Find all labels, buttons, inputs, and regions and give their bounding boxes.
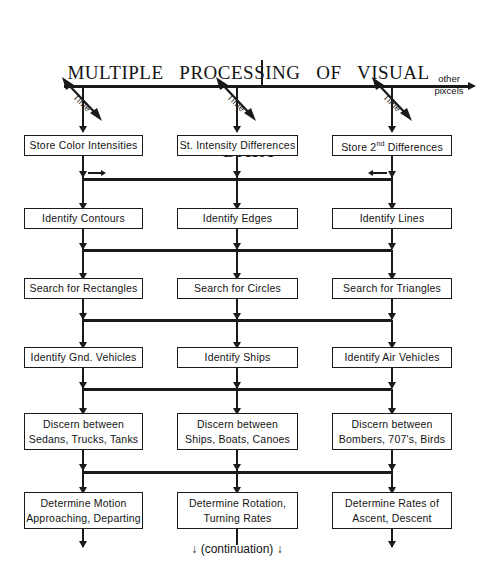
node-c2-s6-line1: Determine Rotation, [189, 496, 286, 511]
node-c3-s2[interactable]: Identify Lines [332, 208, 452, 229]
pixcels-label: pixcels [420, 85, 478, 97]
node-c3-s6[interactable]: Determine Rates of Ascent, Descent [332, 492, 452, 529]
node-c3-s4-line1: Identify Air Vehicles [344, 351, 439, 364]
node-c3-s5-line1: Discern between [351, 417, 432, 432]
node-c3-s3-line1: Search for Triangles [343, 282, 441, 295]
node-c2-s1[interactable]: St. Intensity Differences [177, 135, 298, 156]
c1-arrow-6-icon [79, 541, 87, 548]
node-c2-s3-line1: Search for Circles [194, 282, 281, 295]
crossbar-1-right-hint-line [88, 172, 102, 174]
c2-arrow-axis-icon [233, 126, 241, 133]
c1-arrow-5-icon [79, 464, 87, 471]
node-c1-s6[interactable]: Determine Motion Approaching, Departing [24, 492, 143, 529]
c1-arrow-1-icon [79, 171, 87, 178]
c3-arrow-6-icon [388, 541, 396, 548]
c3-arrow-1-icon [388, 171, 396, 178]
c2-arrow-5-icon [233, 464, 241, 471]
node-c3-s1-line1: Store 2nd Differences [341, 137, 443, 154]
node-c1-s6-line2: Approaching, Departing [26, 511, 141, 526]
node-c2-s5-line2: Ships, Boats, Canoes [185, 432, 290, 447]
node-c1-s4[interactable]: Identify Gnd. Vehicles [24, 347, 143, 368]
other-label: other [420, 73, 478, 85]
c3-arrow-5-icon [388, 464, 396, 471]
node-c2-s1-line1: St. Intensity Differences [180, 139, 296, 152]
diagram-canvas: MULTIPLE PROCESSING OF VISUAL DATA other… [0, 0, 497, 571]
c2-arrow-1-icon [233, 171, 241, 178]
node-c2-s5[interactable]: Discern between Ships, Boats, Canoes [177, 413, 298, 450]
crossbar-1 [82, 178, 392, 181]
node-c1-s3[interactable]: Search for Rectangles [24, 278, 143, 299]
node-c1-s2[interactable]: Identify Contours [24, 208, 143, 229]
node-c3-s1[interactable]: Store 2nd Differences [332, 135, 452, 156]
node-c3-s5-line2: Bombers, 707's, Birds [339, 432, 446, 447]
node-c3-s4[interactable]: Identify Air Vehicles [332, 347, 452, 368]
crossbar-4 [82, 388, 392, 391]
node-c3-s2-line1: Identify Lines [360, 212, 425, 225]
continuation-label: ↓ (continuation) ↓ [157, 542, 317, 556]
node-c2-s3[interactable]: Search for Circles [177, 278, 298, 299]
crossbar-1-right-arrow-icon [101, 170, 106, 176]
node-c2-s2[interactable]: Identify Edges [177, 208, 298, 229]
node-c1-s5[interactable]: Discern between Sedans, Trucks, Tanks [24, 413, 143, 450]
node-c1-s4-line1: Identify Gnd. Vehicles [31, 351, 137, 364]
c1-arrow-axis-icon [79, 126, 87, 133]
node-c2-s6[interactable]: Determine Rotation, Turning Rates [177, 492, 298, 529]
other-pixcels-label: other pixcels [420, 73, 478, 96]
crossbar-5 [82, 471, 392, 474]
crossbar-1-left-arrow-icon [368, 170, 373, 176]
node-c2-s4[interactable]: Identify Ships [177, 347, 298, 368]
node-c3-s1-tail: Differences [385, 141, 443, 153]
node-c1-s6-line1: Determine Motion [40, 496, 126, 511]
node-c1-s1-line1: Store Color Intensities [30, 139, 138, 152]
crossbar-3 [82, 319, 392, 322]
node-c3-s3[interactable]: Search for Triangles [332, 278, 452, 299]
node-c3-s1-sup: nd [376, 140, 384, 147]
crossbar-2 [82, 249, 392, 252]
c2-conn-axis [236, 86, 238, 128]
node-c1-s5-line2: Sedans, Trucks, Tanks [29, 432, 139, 447]
node-c3-s1-base: Store 2 [341, 141, 376, 153]
c3-arrow-axis-icon [388, 126, 396, 133]
node-c2-s6-line2: Turning Rates [203, 511, 271, 526]
crossbar-1-left-hint-line [373, 172, 387, 174]
node-c3-s6-line2: Ascent, Descent [352, 511, 431, 526]
node-c2-s5-line1: Discern between [197, 417, 278, 432]
node-c1-s3-line1: Search for Rectangles [29, 282, 137, 295]
c3-conn-axis [391, 86, 393, 128]
c1-conn-axis [82, 86, 84, 128]
node-c1-s5-line1: Discern between [43, 417, 124, 432]
node-c1-s1[interactable]: Store Color Intensities [24, 135, 143, 156]
node-c2-s4-line1: Identify Ships [205, 351, 271, 364]
node-c3-s6-line1: Determine Rates of [345, 496, 439, 511]
node-c3-s5[interactable]: Discern between Bombers, 707's, Birds [332, 413, 452, 450]
node-c1-s2-line1: Identify Contours [42, 212, 125, 225]
node-c2-s2-line1: Identify Edges [203, 212, 272, 225]
